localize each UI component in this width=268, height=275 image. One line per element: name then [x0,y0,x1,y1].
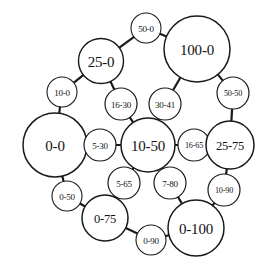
node-label-n0_0: 0-0 [45,138,64,154]
node-0-50[interactable]: 0-50 [52,181,82,211]
edge-n25_0-to-n16_30 [110,81,114,90]
node-label-n10_0: 10-0 [54,88,70,98]
node-0-0[interactable]: 0-0 [23,113,87,177]
node-label-n25_75: 25-75 [216,139,244,153]
edge-n50_50-to-n25_75 [231,108,232,121]
network-graph: 0-025-0100-050-010-016-3030-4150-505-301… [0,0,268,275]
node-label-n16_65: 16-65 [185,141,203,150]
node-label-n0_75: 0-75 [94,212,116,226]
node-7-80[interactable]: 7-80 [154,167,186,199]
edge-n100_0-to-n30_41 [173,77,181,91]
node-label-n7_80: 7-80 [162,179,178,189]
edge-n0_75-to-n0_90 [125,228,138,234]
node-label-n16_30: 16-30 [111,100,132,110]
edge-n10_0-to-n25_0 [73,75,84,83]
node-label-n50_50: 50-50 [224,89,242,98]
node-5-65[interactable]: 5-65 [108,167,140,199]
edge-n7_80-to-n0_100 [178,196,183,204]
node-0-90[interactable]: 0-90 [136,225,166,255]
node-label-n10_90: 10-90 [215,186,233,195]
node-25-0[interactable]: 25-0 [79,39,124,84]
node-10-90[interactable]: 10-90 [208,174,240,206]
node-16-65[interactable]: 16-65 [178,129,210,161]
node-label-n30_41: 30-41 [155,100,175,110]
node-16-30[interactable]: 16-30 [105,88,137,120]
node-5-30[interactable]: 5-30 [84,129,116,161]
node-label-n0_50: 0-50 [59,192,75,202]
nodes-layer: 0-025-0100-050-010-016-3030-4150-505-301… [23,13,254,256]
node-label-n100_0: 100-0 [180,42,214,58]
node-10-50[interactable]: 10-50 [121,118,175,172]
node-50-50[interactable]: 50-50 [217,77,249,109]
node-label-n25_0: 25-0 [88,54,115,70]
edge-n100_0-to-n50_50 [218,74,224,81]
node-label-n0_90: 0-90 [143,236,159,246]
node-label-n10_50: 10-50 [131,138,165,154]
edge-n25_0-to-n50_0 [119,37,135,49]
node-50-0[interactable]: 50-0 [131,13,161,43]
node-25-75[interactable]: 25-75 [206,121,254,169]
node-label-n0_100: 0-100 [179,221,213,237]
diagram-canvas: 0-025-0100-050-010-016-3030-4150-505-301… [0,0,268,275]
node-100-0[interactable]: 100-0 [164,16,230,82]
node-label-n5_30: 5-30 [92,141,108,151]
node-label-n50_0: 50-0 [138,24,154,34]
node-10-0[interactable]: 10-0 [47,77,77,107]
node-30-41[interactable]: 30-41 [149,88,181,120]
node-label-n5_65: 5-65 [116,179,132,189]
node-0-75[interactable]: 0-75 [82,195,128,241]
node-0-100[interactable]: 0-100 [168,200,224,256]
